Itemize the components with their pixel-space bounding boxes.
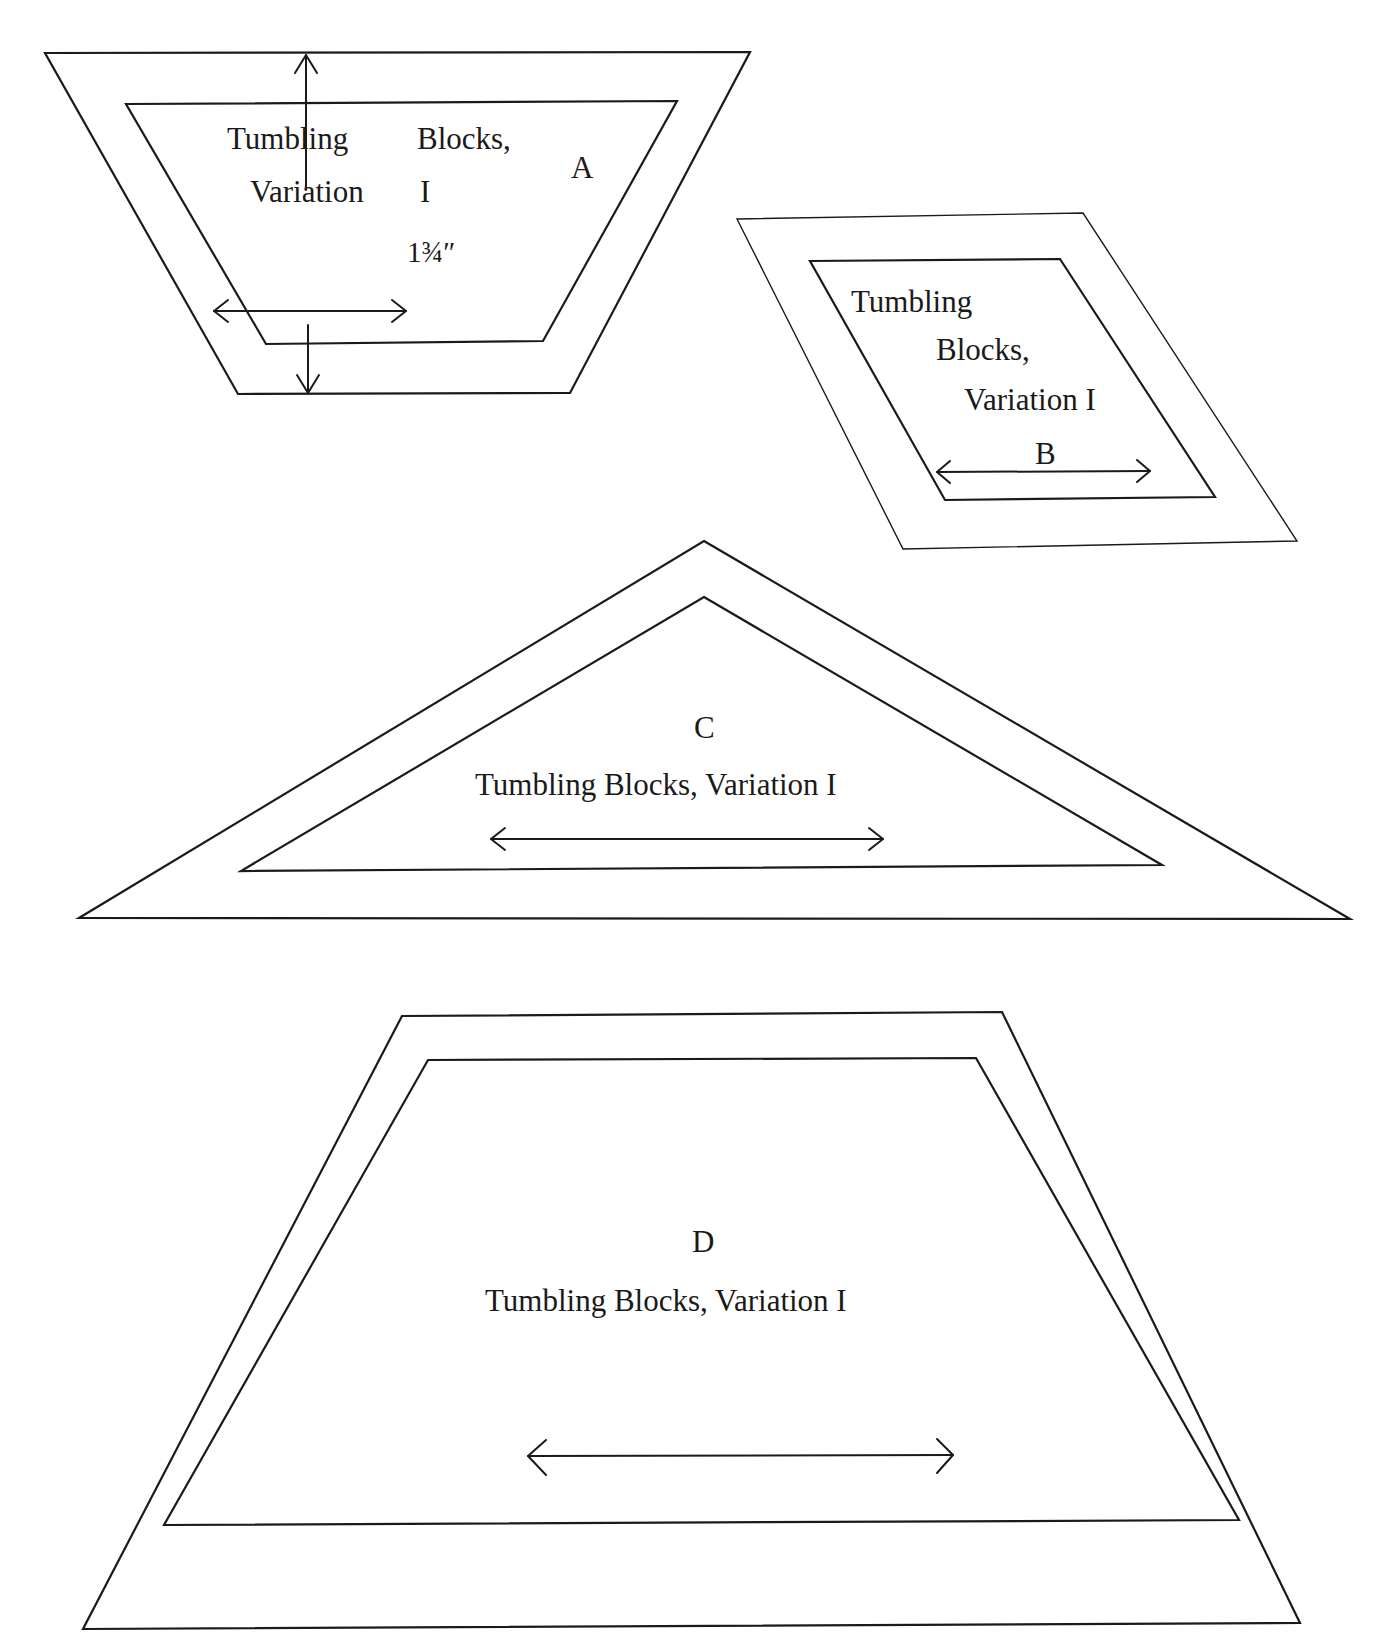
piece-b-name-line3: Variation I <box>964 384 1096 415</box>
piece-c-name: Tumbling Blocks, Variation I <box>475 769 837 800</box>
piece-a <box>45 52 750 394</box>
piece-d-cutting-line <box>83 1012 1300 1629</box>
piece-a-letter: A <box>571 152 593 183</box>
pattern-drawing <box>0 0 1384 1637</box>
piece-a-dimension: 1¾″ <box>407 238 455 267</box>
piece-b <box>737 213 1297 549</box>
piece-d-letter: D <box>692 1226 714 1257</box>
piece-d <box>83 1012 1300 1629</box>
piece-a-name-line2-right: I <box>420 176 430 207</box>
piece-b-name-line2: Blocks, <box>936 334 1030 365</box>
piece-a-name-line1-left: Tumbling <box>227 123 348 154</box>
piece-a-name-line2-left: Variation <box>250 176 364 207</box>
piece-d-name: Tumbling Blocks, Variation I <box>485 1285 847 1316</box>
piece-b-letter: B <box>1035 438 1056 469</box>
piece-a-name-line1-right: Blocks, <box>417 123 511 154</box>
piece-b-name-line1: Tumbling <box>851 286 972 317</box>
pattern-sheet: Tumbling Blocks, Variation I A 1¾″ Tumbl… <box>0 0 1384 1637</box>
piece-c-grain-arrow-icon <box>491 828 883 850</box>
piece-c-letter: C <box>694 712 715 743</box>
piece-d-grain-arrow-icon <box>528 1439 953 1475</box>
piece-a-seam-arrow-icon <box>295 55 319 393</box>
